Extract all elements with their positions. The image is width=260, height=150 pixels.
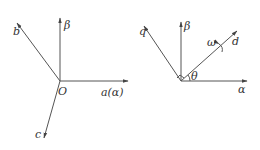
omega-label: ω <box>207 36 216 49</box>
beta-label: β <box>63 19 70 32</box>
b-axis <box>17 23 60 81</box>
d-label: d <box>232 35 239 48</box>
origin-label: O <box>58 85 67 98</box>
q-label: q <box>139 25 146 38</box>
theta-label: θ <box>191 70 198 83</box>
theta-arc <box>188 75 190 81</box>
alpha-label: α <box>238 83 246 96</box>
coordinate-frames-diagram: β b a(α) c O q β d α θ ω <box>0 0 260 150</box>
a-alpha-label: a(α) <box>101 86 124 99</box>
q-axis <box>144 26 181 81</box>
b-label: b <box>13 25 20 38</box>
c-label: c <box>35 128 41 141</box>
abc-frame: β b a(α) c O <box>13 18 128 141</box>
beta-label: β <box>183 20 190 33</box>
dq-frame: q β d α θ ω <box>139 20 247 96</box>
